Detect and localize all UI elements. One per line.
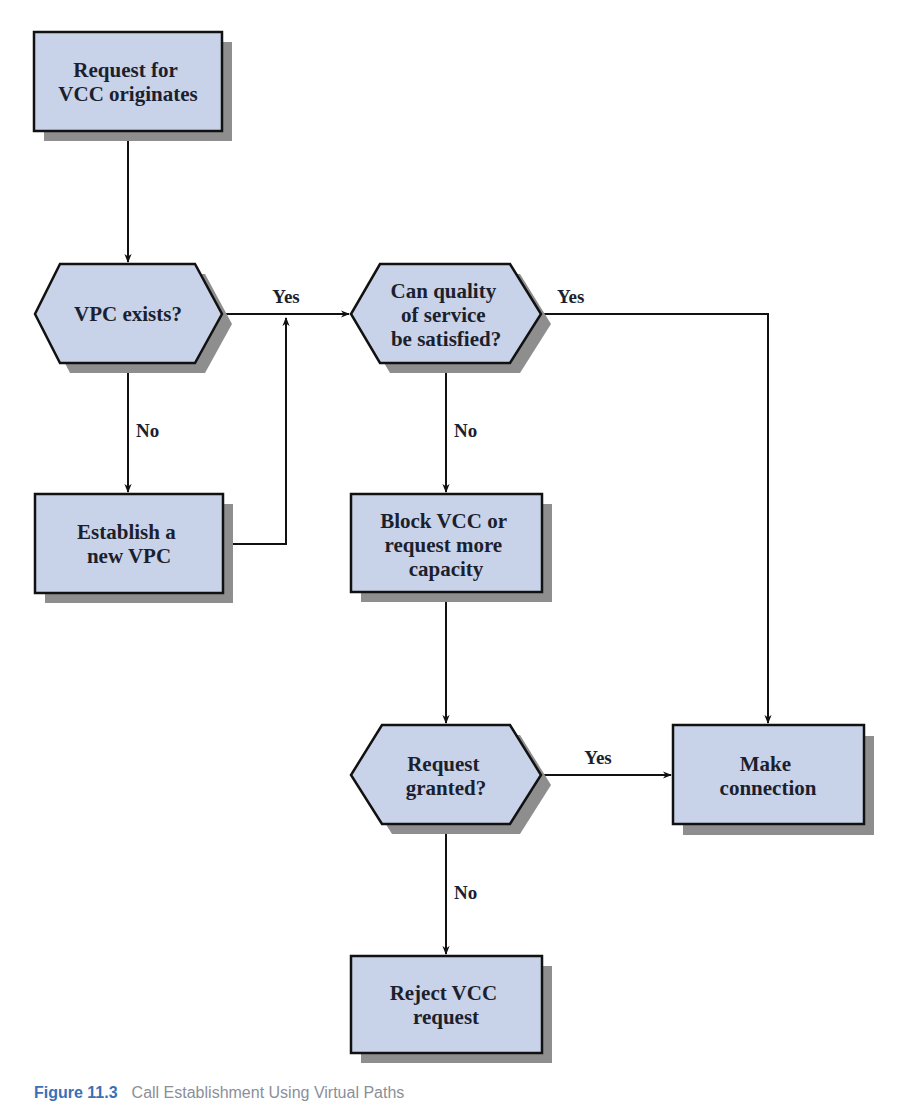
figure-caption: Figure 11.3Call Establishment Using Virt…: [34, 1084, 404, 1102]
svg-text:Request for VCC originat: Request for VCC originates: [58, 58, 197, 106]
svg-text:Can quality of service: Can quality of service be satisfied?: [391, 279, 502, 351]
node-text-line: connection: [720, 776, 817, 800]
svg-text:Request granted?: Request granted?: [406, 752, 487, 800]
node-text-line: be satisfied?: [391, 327, 501, 351]
node-text-line: of service: [401, 303, 486, 327]
figure-number: Figure 11.3: [34, 1084, 118, 1101]
node-text-line: capacity: [409, 557, 484, 581]
node-text-line: Request: [407, 752, 479, 776]
label-qos-yes: Yes: [557, 286, 584, 307]
node-block-vcc: Block VCC or request more capacity: [351, 494, 552, 602]
label-granted-no: No: [454, 882, 477, 903]
node-request-granted: Request granted?: [351, 725, 551, 834]
node-text-line: request more: [385, 533, 503, 557]
node-reject-vcc: Reject VCC request: [351, 956, 552, 1063]
node-text-line: Can quality: [391, 279, 497, 303]
node-request-originates: Request for VCC originates: [34, 32, 232, 141]
node-text-line: Make: [740, 752, 791, 776]
node-text-line: VPC exists?: [74, 302, 182, 326]
node-text-line: Request for: [73, 58, 177, 82]
figure-caption-text: Call Establishment Using Virtual Paths: [132, 1084, 405, 1101]
edge-qos-yes-to-make-connection: [541, 314, 768, 723]
node-text-line: Reject VCC: [390, 981, 497, 1005]
label-granted-yes: Yes: [584, 747, 611, 768]
node-establish-vpc: Establish a new VPC: [35, 494, 233, 603]
node-text-line: VCC originates: [58, 82, 197, 106]
node-vpc-exists: VPC exists?: [35, 264, 232, 373]
node-text-line: Block VCC or: [380, 509, 506, 533]
node-text-line: new VPC: [87, 544, 171, 568]
node-qos-satisfied: Can quality of service be satisfied?: [351, 264, 551, 373]
node-text-line: Establish a: [77, 520, 176, 544]
label-qos-no: No: [454, 420, 477, 441]
svg-text:VPC exists?: VPC exists?: [74, 302, 182, 326]
label-vpc-yes: Yes: [272, 286, 299, 307]
node-text-line: request: [413, 1005, 479, 1029]
node-make-connection: Make connection: [673, 725, 874, 835]
label-vpc-no: No: [136, 420, 159, 441]
svg-text:Establish a new VPC: Establish a new VPC: [77, 520, 181, 568]
node-text-line: granted?: [406, 776, 487, 800]
